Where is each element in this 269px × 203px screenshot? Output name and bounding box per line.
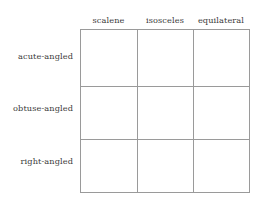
cell-obtuse-equilateral[interactable] bbox=[194, 87, 250, 140]
cell-right-scalene[interactable] bbox=[81, 140, 138, 193]
cell-obtuse-scalene[interactable] bbox=[81, 87, 138, 140]
cell-right-equilateral[interactable] bbox=[194, 140, 250, 193]
cell-obtuse-isosceles[interactable] bbox=[138, 87, 194, 140]
row-label-acute-angled: acute-angled bbox=[0, 51, 73, 61]
column-header-isosceles: isosceles bbox=[137, 13, 193, 27]
table-row bbox=[81, 30, 250, 87]
cell-acute-isosceles[interactable] bbox=[138, 30, 194, 87]
table-row bbox=[81, 87, 250, 140]
cell-right-isosceles[interactable] bbox=[138, 140, 194, 193]
row-label-right-angled: right-angled bbox=[0, 156, 73, 166]
triangle-classification-matrix: scalene isosceles equilateral acute-angl… bbox=[0, 0, 269, 203]
cell-acute-equilateral[interactable] bbox=[194, 30, 250, 87]
cell-acute-scalene[interactable] bbox=[81, 30, 138, 87]
table-row bbox=[81, 140, 250, 193]
column-header-scalene: scalene bbox=[80, 13, 137, 27]
matrix-grid bbox=[80, 29, 250, 193]
row-label-column: acute-angled obtuse-angled right-angled bbox=[0, 29, 73, 192]
column-header-equilateral: equilateral bbox=[193, 13, 249, 27]
column-header-row: scalene isosceles equilateral bbox=[80, 13, 249, 27]
row-label-obtuse-angled: obtuse-angled bbox=[0, 103, 73, 113]
